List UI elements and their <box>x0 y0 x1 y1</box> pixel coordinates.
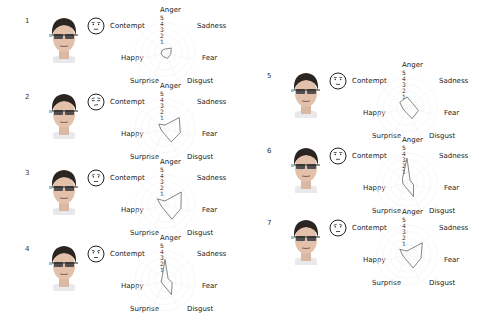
panel-number: 7 <box>267 219 271 227</box>
radar-chart <box>367 215 467 295</box>
panel-number: 1 <box>25 17 29 25</box>
face-photo <box>287 215 325 267</box>
emoticon-icon <box>87 245 105 263</box>
emoticon-icon <box>329 72 347 90</box>
participant-panel-7: 7 Contempt Anger Sadness Happy Fear Surp… <box>267 215 467 295</box>
radar-polygon <box>157 192 181 219</box>
panel-number: 5 <box>267 72 271 80</box>
participant-panel-4: 4 Contempt Anger Sadness Happy Fear Surp… <box>25 241 225 321</box>
radar-chart <box>125 89 225 169</box>
participant-panel-5: 5 Contempt Anger Sadness Happy Fear Surp… <box>267 68 467 148</box>
radar-polygon <box>402 158 413 196</box>
participant-panel-1: 1 Contempt Anger Sadness Happy Fear Surp… <box>25 13 225 93</box>
emoticon-icon <box>87 17 105 35</box>
panel-number: 3 <box>25 169 29 177</box>
radar-chart <box>125 13 225 93</box>
face-photo <box>45 165 83 217</box>
participant-panel-3: 3 Contempt Anger Sadness Happy Fear Surp… <box>25 165 225 245</box>
panel-number: 6 <box>267 147 271 155</box>
face-photo <box>287 143 325 195</box>
panel-number: 2 <box>25 93 29 101</box>
face-photo <box>45 241 83 293</box>
panel-number: 4 <box>25 245 29 253</box>
radar-chart <box>125 241 225 321</box>
face-photo <box>287 68 325 120</box>
radar-polygon <box>400 97 419 119</box>
face-photo <box>45 89 83 141</box>
radar-chart <box>125 165 225 245</box>
emoticon-icon <box>87 93 105 111</box>
emoticon-icon <box>329 147 347 165</box>
emoticon-icon <box>87 169 105 187</box>
participant-panel-6: 6 Contempt Anger Sadness Happy Fear Surp… <box>267 143 467 223</box>
participant-panel-2: 2 Contempt Anger Sadness Happy Fear Surp… <box>25 89 225 169</box>
emoticon-icon <box>329 219 347 237</box>
face-photo <box>45 13 83 65</box>
